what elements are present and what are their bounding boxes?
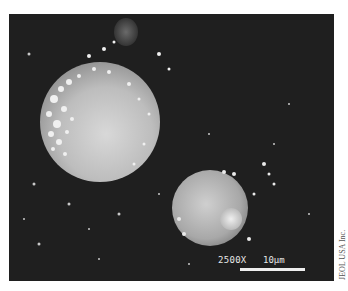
scale-bar <box>240 268 305 271</box>
sem-micrograph <box>9 14 334 281</box>
scale-bar-label: 10µm <box>263 255 285 265</box>
magnification-label: 2500X <box>218 255 247 265</box>
image-credit: JEOL USA Inc. <box>338 230 347 280</box>
micrograph-image <box>9 14 334 281</box>
